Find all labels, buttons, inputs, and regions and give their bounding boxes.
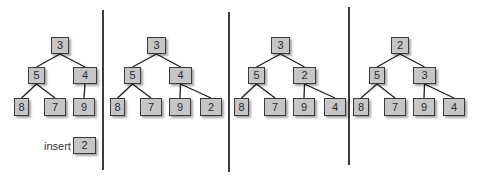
heap-node: 9: [73, 98, 95, 116]
heap-node: 8: [353, 98, 369, 116]
tree-edge: [305, 84, 336, 98]
tree-edge: [22, 84, 37, 98]
heap-node: 8: [110, 98, 125, 116]
tree-edge: [377, 54, 400, 67]
heap-node: 3: [147, 37, 166, 54]
tree-edge: [400, 54, 425, 67]
heap-node: 3: [413, 67, 436, 84]
heap-insertion-diagram: 354879354879235287942538794 insert 2: [0, 0, 481, 178]
heap-node: 4: [443, 98, 465, 116]
heap-node: 7: [264, 98, 286, 116]
tree-edge: [37, 84, 56, 98]
tree-edge: [257, 54, 281, 67]
heap-node: 4: [169, 67, 192, 84]
panel-divider: [102, 10, 104, 170]
insert-value-node: 2: [73, 137, 96, 154]
heap-node: 2: [391, 37, 409, 54]
heap-node: 2: [293, 67, 316, 84]
tree-edge: [304, 84, 305, 98]
heap-node: 5: [369, 67, 385, 84]
tree-edge: [361, 84, 377, 98]
tree-edge: [377, 84, 395, 98]
heap-node: 5: [28, 67, 45, 84]
insert-label: insert: [44, 139, 71, 153]
tree-edge: [133, 54, 157, 67]
tree-edge: [425, 84, 455, 98]
heap-node: 7: [44, 98, 66, 116]
tree-edge: [157, 54, 181, 67]
tree-edge: [180, 84, 181, 98]
heap-node: 7: [140, 98, 162, 116]
heap-node: 9: [169, 98, 191, 116]
tree-edge: [181, 84, 212, 98]
heap-node: 8: [14, 98, 29, 116]
tree-edge: [424, 84, 425, 98]
heap-node: 5: [124, 67, 141, 84]
tree-edge: [84, 84, 85, 98]
heap-node: 9: [293, 98, 315, 116]
tree-edge: [37, 54, 61, 67]
panel-divider: [228, 12, 230, 172]
heap-node: 3: [271, 37, 290, 54]
panel-divider: [348, 7, 350, 165]
heap-node: 2: [200, 98, 222, 116]
heap-node: 4: [324, 98, 346, 116]
heap-node: 8: [234, 98, 249, 116]
heap-node: 5: [248, 67, 265, 84]
tree-edge: [118, 84, 133, 98]
tree-edge: [60, 54, 85, 67]
tree-edge: [242, 84, 257, 98]
tree-edge: [281, 54, 305, 67]
heap-node: 3: [51, 37, 69, 54]
heap-node: 7: [384, 98, 406, 116]
heap-node: 4: [73, 67, 97, 84]
heap-node: 9: [413, 98, 435, 116]
tree-edge: [133, 84, 152, 98]
tree-edge: [257, 84, 276, 98]
